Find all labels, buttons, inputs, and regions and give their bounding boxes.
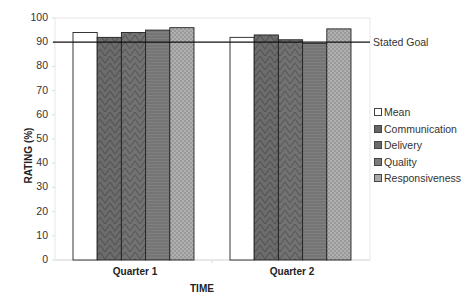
bar-delivery-quarter-2: [278, 40, 302, 260]
legend-item-responsiveness: Responsiveness: [374, 170, 461, 187]
legend-label: Communication: [384, 123, 457, 135]
bar-delivery-quarter-1: [121, 33, 145, 260]
bar-responsiveness-quarter-2: [327, 29, 351, 260]
y-axis-title: RATING (%): [23, 116, 34, 196]
x-category-quarter-1: Quarter 1: [85, 266, 185, 277]
legend: Mean Communication Delivery Quality Resp…: [374, 104, 461, 187]
x-axis-title: TIME: [190, 283, 214, 294]
bar-quality-quarter-2: [303, 43, 327, 260]
bar-chart: 0102030405060708090100 RATING (%) Quarte…: [0, 0, 465, 306]
bar-responsiveness-quarter-1: [170, 28, 194, 260]
legend-item-mean: Mean: [374, 104, 461, 121]
y-tick-label: 0: [18, 253, 48, 265]
bar-mean-quarter-2: [230, 37, 254, 260]
bar-communication-quarter-1: [97, 37, 121, 260]
legend-label: Quality: [384, 156, 417, 168]
y-tick-label: 10: [18, 229, 48, 241]
legend-swatch-quality: [374, 158, 382, 166]
y-tick-label: 20: [18, 205, 48, 217]
y-tick-label: 100: [18, 11, 48, 23]
bar-quality-quarter-1: [146, 30, 170, 260]
y-tick-label: 90: [18, 35, 48, 47]
legend-swatch-mean: [374, 108, 382, 116]
legend-label: Mean: [384, 106, 410, 118]
legend-label: Responsiveness: [384, 172, 461, 184]
legend-item-communication: Communication: [374, 121, 461, 138]
legend-label: Delivery: [384, 139, 422, 151]
x-category-quarter-2: Quarter 2: [242, 266, 342, 277]
legend-item-quality: Quality: [374, 154, 461, 171]
y-tick-label: 70: [18, 84, 48, 96]
goal-line-label: Stated Goal: [373, 36, 428, 48]
legend-swatch-responsiveness: [374, 174, 382, 182]
y-tick-label: 80: [18, 59, 48, 71]
bar-mean-quarter-1: [73, 33, 97, 260]
bar-communication-quarter-2: [254, 35, 278, 260]
legend-swatch-communication: [374, 125, 382, 133]
legend-swatch-delivery: [374, 141, 382, 149]
legend-item-delivery: Delivery: [374, 137, 461, 154]
